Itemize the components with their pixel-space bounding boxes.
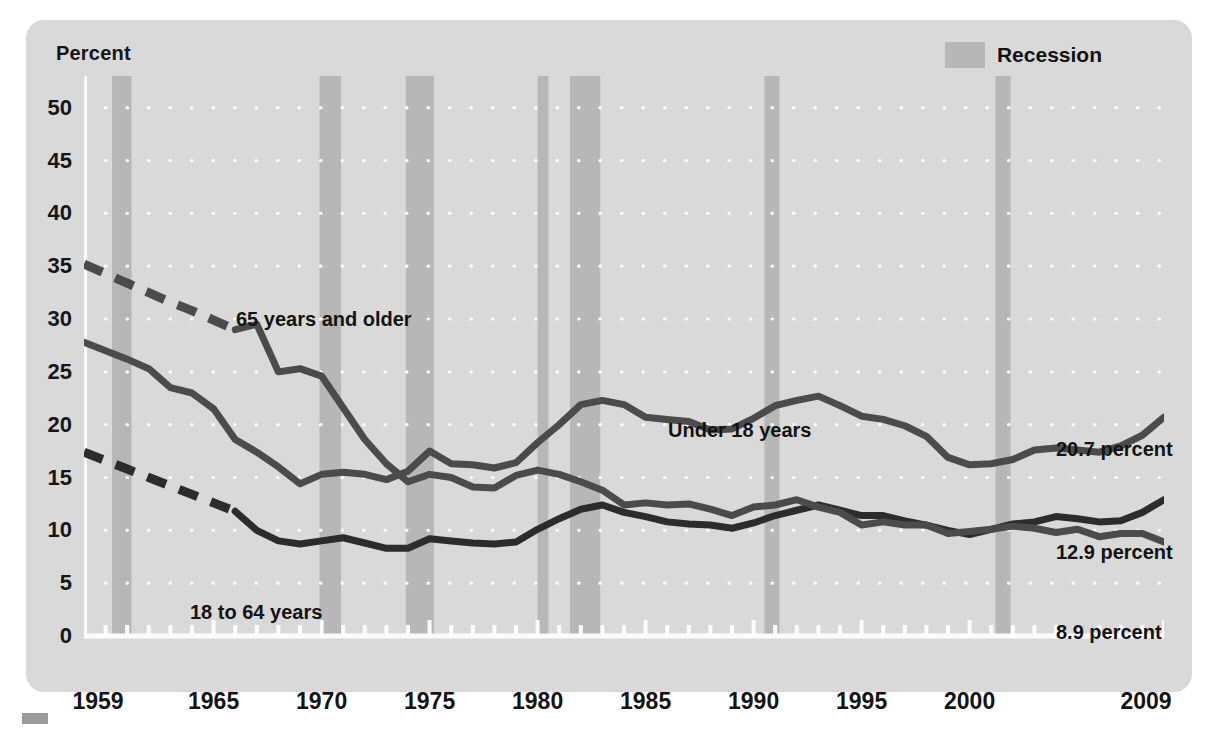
chart-card: Percent Recession 05101520253035404550 6… — [26, 20, 1192, 692]
y-axis-tick-label: 25 — [26, 359, 72, 385]
x-axis-labels: 1959196519701975198019851990199520002009 — [84, 688, 1164, 728]
end-label-18-to-64: 12.9 percent — [1056, 541, 1173, 564]
y-axis-labels: 05101520253035404550 — [84, 76, 142, 684]
x-axis-tick-label: 1985 — [620, 688, 671, 715]
x-axis-tick-label: 2000 — [944, 688, 995, 715]
x-axis-tick-label: 1970 — [296, 688, 347, 715]
y-axis-tick-label: 40 — [26, 200, 72, 226]
end-label-65-older: 8.9 percent — [1056, 621, 1162, 644]
recession-band — [319, 76, 341, 636]
y-axis-title: Percent — [56, 42, 131, 65]
x-axis-tick-label: 1965 — [188, 688, 239, 715]
y-axis-tick-label: 20 — [26, 412, 72, 438]
x-axis-tick-label: 1959 — [72, 688, 123, 715]
page-footer-mark — [22, 713, 48, 724]
recession-swatch-icon — [945, 42, 985, 68]
plot-area: 05101520253035404550 65 years and older1… — [84, 76, 1164, 684]
x-axis-tick-label: 1995 — [836, 688, 887, 715]
y-axis-tick-label: 10 — [26, 517, 72, 543]
x-axis-tick-label: 2009 — [1120, 688, 1171, 715]
x-axis-tick-label: 1990 — [728, 688, 779, 715]
y-axis-tick-label: 0 — [26, 623, 72, 649]
y-axis-tick-label: 5 — [26, 570, 72, 596]
y-axis-tick-label: 30 — [26, 306, 72, 332]
annotation-65-and-older: 65 years and older — [236, 308, 412, 331]
y-axis-tick-label: 15 — [26, 465, 72, 491]
annotation-18-to-64: 18 to 64 years — [190, 601, 322, 624]
end-label-under-18: 20.7 percent — [1056, 438, 1173, 461]
y-axis-tick-label: 45 — [26, 148, 72, 174]
chart-canvas — [84, 76, 1164, 684]
recession-band — [538, 76, 549, 636]
y-axis-tick-label: 50 — [26, 95, 72, 121]
recession-band — [570, 76, 600, 636]
y-axis-tick-label: 35 — [26, 253, 72, 279]
legend-label-recession: Recession — [997, 43, 1102, 67]
figure-root: Percent Recession 05101520253035404550 6… — [0, 0, 1214, 737]
legend: Recession — [945, 42, 1102, 68]
annotation-under-18: Under 18 years — [668, 419, 811, 442]
x-axis-tick-label: 1980 — [512, 688, 563, 715]
x-axis-tick-label: 1975 — [404, 688, 455, 715]
